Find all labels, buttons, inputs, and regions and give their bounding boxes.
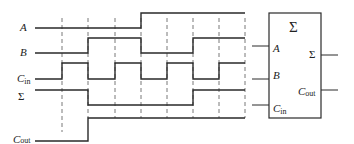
waveform-a	[35, 13, 245, 28]
label-b: B	[20, 46, 27, 58]
adder-title: Σ	[289, 19, 298, 35]
waveform-cin	[35, 63, 245, 79]
label-cin: Cin	[17, 72, 31, 86]
full-adder-block: Σ A B Cin Σ Cout	[252, 13, 338, 118]
input-label-a: A	[272, 42, 280, 54]
label-sum: Σ	[18, 90, 24, 102]
output-label-sum: Σ	[309, 48, 315, 60]
time-markers	[62, 18, 245, 132]
timing-diagram: A B Cin Σ Cout Σ A B Cin Σ Cout	[0, 0, 354, 144]
waveform-b	[35, 38, 245, 53]
waveform-sum	[35, 90, 245, 105]
waveform-cout	[35, 118, 245, 141]
input-label-b: B	[273, 69, 280, 81]
label-a: A	[19, 21, 27, 33]
label-cout: Cout	[13, 133, 31, 144]
